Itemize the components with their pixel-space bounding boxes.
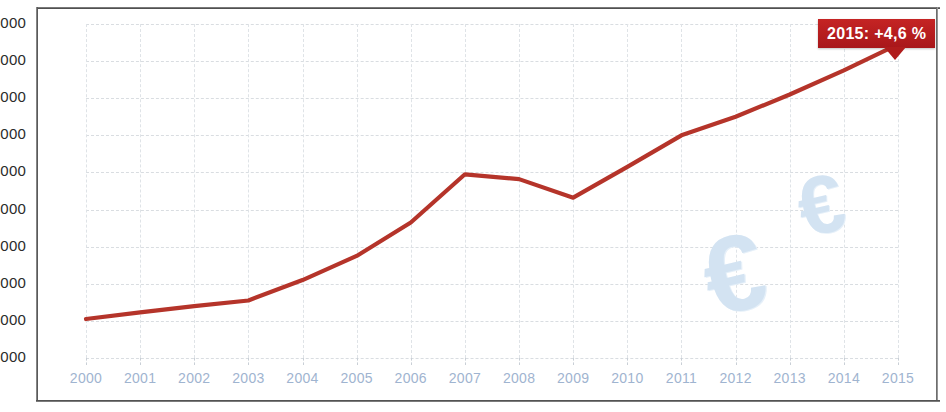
x-axis-tick-mark	[844, 358, 846, 365]
x-axis-tick-mark	[898, 358, 900, 365]
x-axis-tick-label: 2002	[164, 370, 224, 386]
figure-left-border	[36, 7, 38, 402]
gridline-vertical	[898, 24, 900, 358]
x-axis-tick-mark	[519, 358, 521, 365]
x-axis-tick-mark	[303, 358, 305, 365]
x-axis-tick-mark	[465, 358, 467, 365]
figure-right-border	[936, 7, 938, 402]
y-axis-tick-label: 18000	[0, 14, 26, 31]
x-axis-tick-label: 2004	[273, 370, 333, 386]
y-axis-tick-label: 12000	[0, 237, 26, 254]
x-axis-tick-label: 2003	[218, 370, 278, 386]
x-axis-tick-label: 2006	[381, 370, 441, 386]
gridline-horizontal	[86, 358, 898, 360]
x-axis-tick-label: 2000	[56, 370, 116, 386]
x-axis-tick-mark	[194, 358, 196, 365]
y-axis-tick-label: 9000	[0, 348, 26, 365]
x-axis-tick-label: 2010	[597, 370, 657, 386]
plot-area: 1800017000160001500014000130001200011000…	[86, 24, 898, 358]
y-axis-tick-label: 15000	[0, 125, 26, 142]
x-axis-tick-label: 2005	[327, 370, 387, 386]
x-axis-tick-label: 2007	[435, 370, 495, 386]
y-axis-tick-label: 14000	[0, 162, 26, 179]
data-series-line	[86, 24, 898, 358]
x-axis-tick-mark	[86, 358, 88, 365]
y-axis-tick-label: 16000	[0, 88, 26, 105]
x-axis-tick-mark	[140, 358, 142, 365]
growth-callout-pointer-icon	[884, 47, 906, 60]
x-axis-tick-label: 2015	[868, 370, 928, 386]
x-axis-tick-mark	[248, 358, 250, 365]
x-axis-tick-mark	[573, 358, 575, 365]
y-axis-tick-label: 10000	[0, 311, 26, 328]
x-axis-tick-label: 2012	[706, 370, 766, 386]
figure-top-border	[36, 7, 940, 9]
figure-bottom-border	[36, 400, 940, 402]
x-axis-tick-label: 2011	[651, 370, 711, 386]
y-axis-tick-label: 11000	[0, 274, 26, 291]
x-axis-tick-mark	[627, 358, 629, 365]
y-axis-tick-label: 17000	[0, 51, 26, 68]
x-axis-tick-label: 2014	[814, 370, 874, 386]
x-axis-tick-mark	[357, 358, 359, 365]
x-axis-tick-mark	[790, 358, 792, 365]
x-axis-tick-label: 2013	[760, 370, 820, 386]
line-chart-figure: 1800017000160001500014000130001200011000…	[0, 0, 946, 412]
x-axis-tick-mark	[736, 358, 738, 365]
x-axis-tick-mark	[411, 358, 413, 365]
x-axis-tick-label: 2001	[110, 370, 170, 386]
y-axis-tick-label: 13000	[0, 200, 26, 217]
growth-callout-badge: 2015: +4,6 %	[818, 19, 935, 48]
growth-callout-label: 2015: +4,6 %	[827, 25, 926, 43]
x-axis-tick-mark	[681, 358, 683, 365]
x-axis-tick-label: 2008	[489, 370, 549, 386]
x-axis-tick-label: 2009	[543, 370, 603, 386]
